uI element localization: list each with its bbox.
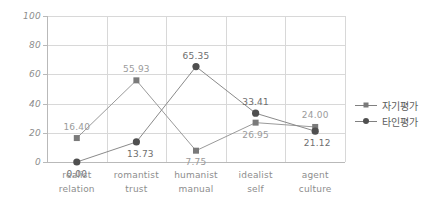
y-axis-tick-mark <box>43 74 47 75</box>
x-axis-category-label: humanistmanual <box>166 168 226 214</box>
data-point-marker-circle[interactable] <box>312 128 319 135</box>
y-axis-tick-mark <box>43 133 47 134</box>
data-point-marker-square[interactable] <box>193 148 199 154</box>
data-point-marker-square[interactable] <box>74 135 80 141</box>
y-axis-tick-mark <box>43 16 47 17</box>
data-point-marker-circle[interactable] <box>73 158 80 165</box>
x-axis-labels: realistrelationromantisttrusthumanistman… <box>47 168 345 214</box>
data-point-value-label: 24.00 <box>302 110 329 120</box>
y-axis-tick-mark <box>43 162 47 163</box>
x-axis-category-label: idealistself <box>226 168 286 214</box>
data-point-value-label: 16.40 <box>63 122 90 132</box>
y-axis-tick-mark <box>43 104 47 105</box>
data-point-marker-square[interactable] <box>133 77 139 83</box>
legend-square-marker-icon <box>355 100 377 110</box>
data-point-marker-square[interactable] <box>253 120 259 126</box>
data-point-value-label: 7.75 <box>186 157 207 167</box>
data-point-value-label: 21.12 <box>304 138 331 148</box>
legend-item-self[interactable]: 자기평가 <box>355 97 431 113</box>
legend-label-other: 타인평가 <box>377 114 418 129</box>
legend-label-self: 자기평가 <box>377 98 418 113</box>
chart-legend: 자기평가 타인평가 <box>355 97 431 129</box>
data-point-marker-circle[interactable] <box>133 138 140 145</box>
line-chart: 100806040200 16.4055.937.7526.9524.000.0… <box>0 0 431 219</box>
legend-item-other[interactable]: 타인평가 <box>355 113 431 129</box>
data-point-value-label: 55.93 <box>123 64 150 74</box>
x-axis-category-label: realistrelation <box>47 168 107 214</box>
data-point-marker-circle[interactable] <box>192 63 199 70</box>
data-point-marker-circle[interactable] <box>252 110 259 117</box>
data-point-value-label: 26.95 <box>242 130 269 140</box>
legend-circle-marker-icon <box>355 116 377 126</box>
y-axis-tick-mark <box>43 45 47 46</box>
data-point-value-label: 33.41 <box>242 97 269 107</box>
data-point-value-label: 13.73 <box>127 149 154 159</box>
x-axis-category-label: agentculture <box>285 168 345 214</box>
data-point-value-label: 65.35 <box>183 51 210 61</box>
series-line-self <box>77 80 315 150</box>
x-axis-category-label: romantisttrust <box>107 168 167 214</box>
